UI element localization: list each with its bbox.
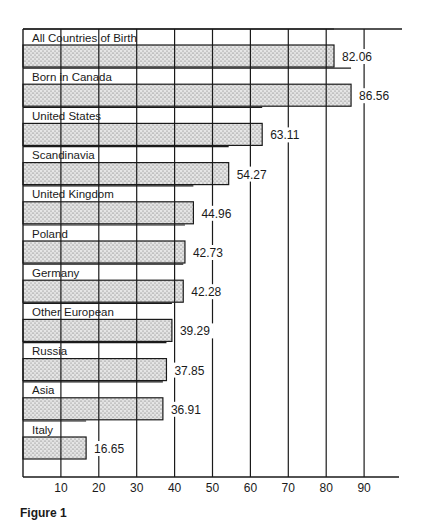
bar: [23, 241, 185, 263]
value-label: 63.11: [270, 128, 299, 142]
value-label: 86.56: [359, 89, 389, 103]
category-label: Asia: [32, 384, 55, 396]
category-label: Russia: [32, 345, 68, 357]
bar: [23, 437, 86, 459]
category-label: United Kingdom: [32, 188, 114, 200]
value-label: 54.27: [237, 168, 267, 182]
value-label: 44.96: [201, 207, 231, 221]
bar-group: Scandinavia54.27: [23, 147, 271, 185]
bar-group: Other European39.29: [23, 303, 214, 341]
bar-group: United Kingdom44.96: [23, 186, 235, 224]
bar: [23, 202, 193, 224]
tick-label: 80: [320, 481, 334, 495]
tick-label: 40: [168, 481, 182, 495]
bar: [23, 163, 229, 185]
bar: [23, 123, 262, 145]
bar-group: Germany42.28: [23, 264, 225, 302]
tick-label: 20: [92, 481, 106, 495]
value-label: 16.65: [94, 442, 124, 456]
category-label: United States: [32, 110, 101, 122]
tick-label: 90: [357, 481, 371, 495]
category-label: All Countries of Birth: [32, 32, 137, 44]
bar: [23, 280, 183, 302]
tick-label: 70: [282, 481, 296, 495]
bar-group: Asia36.91: [23, 382, 205, 420]
x-axis-ticks: 102030405060708090: [54, 481, 371, 495]
bar: [23, 84, 351, 106]
bar-group: Russia37.85: [23, 343, 208, 381]
category-label: Born in Canada: [32, 71, 113, 83]
bar: [23, 45, 334, 67]
figure-caption: Figure 1: [20, 506, 67, 520]
bar-group: Italy16.65: [23, 421, 128, 459]
tick-label: 50: [206, 481, 220, 495]
tick-label: 30: [130, 481, 144, 495]
bar-group: United States63.11: [23, 107, 304, 145]
tick-label: 60: [244, 481, 258, 495]
bar-group: Poland42.73: [23, 225, 227, 263]
tick-label: 10: [54, 481, 68, 495]
value-label: 42.28: [191, 285, 221, 299]
bar: [23, 398, 163, 420]
value-label: 39.29: [180, 324, 210, 338]
bars: All Countries of Birth82.06Born in Canad…: [23, 29, 393, 459]
category-label: Italy: [32, 424, 53, 436]
value-label: 36.91: [171, 403, 201, 417]
bar: [23, 359, 166, 381]
category-label: Other European: [32, 306, 114, 318]
value-label: 42.73: [193, 246, 223, 260]
bar-group: All Countries of Birth82.06: [23, 29, 376, 67]
category-label: Scandinavia: [32, 149, 95, 161]
category-label: Germany: [32, 267, 80, 279]
value-label: 37.85: [174, 364, 204, 378]
bar-group: Born in Canada86.56: [23, 68, 393, 106]
category-label: Poland: [32, 228, 68, 240]
bar: [23, 319, 172, 341]
value-label: 82.06: [342, 50, 372, 64]
